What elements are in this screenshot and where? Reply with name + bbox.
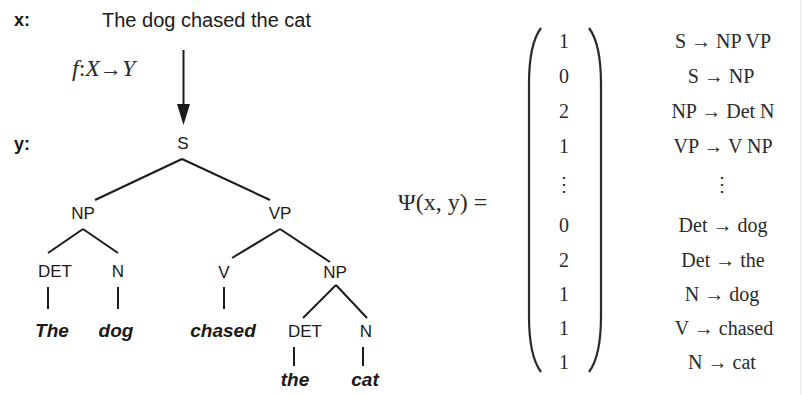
grammar-rule: V → chased — [675, 317, 774, 340]
vector-value: 0 — [549, 214, 579, 237]
tree-node-v: V — [218, 263, 229, 283]
grammar-rule: Det → the — [681, 249, 764, 272]
grammar-rule: S → NP — [688, 65, 755, 88]
left-paren-icon — [529, 28, 541, 372]
grammar-rule: VP → V NP — [673, 135, 772, 158]
tree-node-np-subject: NP — [71, 204, 95, 224]
vector-ellipsis: ⋮ — [549, 172, 579, 196]
grammar-rule-ellipsis: ⋮ — [712, 172, 732, 196]
grammar-rule: N → dog — [685, 283, 759, 306]
tree-leaf-cat: cat — [351, 369, 378, 391]
right-paren-icon — [589, 28, 601, 372]
vector-value: 1 — [549, 135, 579, 158]
image-edge-divider — [800, 0, 801, 395]
vector-value: 2 — [549, 249, 579, 272]
vector-value: 1 — [549, 283, 579, 306]
grammar-rule: NP → Det N — [671, 100, 774, 123]
tree-node-det-2: DET — [288, 322, 322, 342]
grammar-rule: S → NP VP — [675, 30, 771, 53]
vector-value: 0 — [549, 65, 579, 88]
grammar-rule: Det → dog — [679, 214, 768, 237]
tree-node-det-1: DET — [38, 262, 72, 282]
down-arrow-icon — [177, 50, 190, 125]
tree-leaf-chased: chased — [190, 320, 255, 342]
tree-leaf-the-cap: The — [35, 320, 69, 342]
tree-node-n-1: N — [112, 262, 124, 282]
feature-map-lhs: Ψ(x, y) = — [398, 189, 487, 216]
tree-node-n-2: N — [360, 322, 372, 342]
vector-value: 2 — [549, 100, 579, 123]
vector-value: 1 — [549, 317, 579, 340]
tree-node-s: S — [177, 134, 188, 154]
tree-leaf-dog: dog — [99, 320, 134, 342]
grammar-rule: N → cat — [688, 351, 756, 374]
vector-value: 1 — [549, 351, 579, 374]
tree-leaf-the: the — [281, 369, 310, 391]
tree-node-np-object: NP — [323, 263, 347, 283]
vector-value: 1 — [549, 30, 579, 53]
tree-node-vp: VP — [269, 204, 292, 224]
